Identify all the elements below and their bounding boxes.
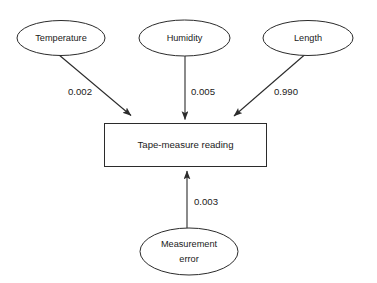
path-diagram: 0.002 0.005 0.990 0.003 Temperature Humi… (0, 0, 377, 283)
humidity-label: Humidity (167, 33, 203, 43)
node-measurement-error[interactable]: Measurement error (140, 228, 238, 275)
node-temperature[interactable]: Temperature (17, 21, 105, 56)
node-tape-measure-reading[interactable]: Tape-measure reading (105, 124, 267, 167)
edge-weight-humidity: 0.005 (191, 86, 215, 97)
edge-weight-temperature: 0.002 (68, 86, 92, 97)
edge-weight-measurement-error: 0.003 (194, 196, 218, 207)
edge-weight-length: 0.990 (274, 86, 298, 97)
temperature-label: Temperature (35, 33, 87, 43)
edge-temperature-to-reading: 0.002 (59, 55, 132, 116)
path-diagram-canvas: 0.002 0.005 0.990 0.003 Temperature Humi… (0, 0, 377, 283)
node-length[interactable]: Length (263, 21, 353, 56)
measurement-error-label-line2: error (179, 254, 198, 264)
edge-length-to-reading: 0.990 (234, 55, 305, 117)
edge-measurement-error-to-reading: 0.003 (187, 171, 218, 228)
node-humidity[interactable]: Humidity (139, 20, 230, 56)
tape-measure-reading-label: Tape-measure reading (138, 139, 234, 150)
measurement-error-label-line1: Measurement (161, 239, 218, 249)
length-label: Length (294, 33, 322, 43)
edge-humidity-to-reading: 0.005 (185, 56, 215, 120)
measurement-error-ellipse (140, 228, 238, 275)
